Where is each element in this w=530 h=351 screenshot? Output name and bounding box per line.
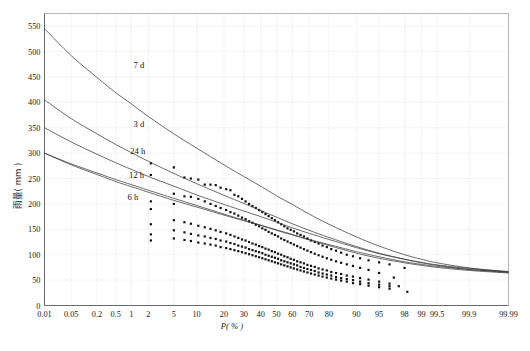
y-tick-label: 500 (28, 48, 40, 57)
data-point (229, 248, 231, 250)
x-tick-label: 70 (305, 310, 313, 319)
x-tick-label: 99.9 (462, 310, 477, 319)
data-point (352, 282, 354, 284)
data-point (271, 250, 273, 252)
data-point (359, 277, 361, 279)
data-point (306, 250, 308, 252)
data-point (197, 178, 199, 180)
data-point (183, 239, 185, 241)
data-point (286, 240, 288, 242)
data-point (215, 244, 217, 246)
data-point (197, 225, 199, 227)
data-point (258, 245, 260, 247)
data-point (241, 251, 243, 253)
data-point (335, 250, 337, 252)
data-point (233, 243, 235, 245)
data-point (274, 251, 276, 253)
data-point (215, 205, 217, 207)
data-point (204, 235, 206, 237)
data-point (261, 257, 263, 259)
data-point (271, 256, 273, 258)
data-point (251, 254, 253, 256)
data-point (229, 234, 231, 236)
data-point (271, 260, 273, 262)
x-tick-label: 30 (240, 310, 248, 319)
data-point (303, 235, 305, 237)
data-point (190, 196, 192, 198)
data-point (290, 266, 292, 268)
data-point (352, 265, 354, 267)
data-point (306, 268, 308, 270)
data-point (241, 217, 243, 219)
data-point (340, 252, 342, 254)
data-point (340, 262, 342, 264)
data-point (367, 282, 369, 284)
data-point (280, 263, 282, 265)
x-tick-label: 40 (257, 310, 265, 319)
data-point (317, 254, 319, 256)
data-point (330, 248, 332, 250)
x-axis-title: P( % ) (220, 321, 244, 331)
data-point (173, 193, 175, 195)
data-point (237, 250, 239, 252)
y-axis-tick-labels: 050100150200250300350400450500550 (28, 22, 40, 310)
data-point (280, 259, 282, 261)
data-point (306, 264, 308, 266)
data-point (286, 256, 288, 258)
data-point (271, 232, 273, 234)
data-point (330, 271, 332, 273)
x-axis-tick-labels: 0.010.050.20.512510203040506070809095989… (37, 310, 518, 319)
y-tick-label: 250 (28, 175, 40, 184)
data-point (264, 248, 266, 250)
data-point (229, 211, 231, 213)
data-point (286, 261, 288, 263)
x-tick-label: 60 (288, 310, 296, 319)
data-point (209, 184, 211, 186)
data-point (314, 266, 316, 268)
data-point (173, 166, 175, 168)
data-point (261, 246, 263, 248)
data-point (225, 232, 227, 234)
data-point (286, 227, 288, 229)
data-point (335, 279, 337, 281)
series-label-6h: 6 h (128, 192, 139, 202)
data-point (233, 249, 235, 251)
data-point (219, 246, 221, 248)
data-point (244, 239, 246, 241)
data-point (150, 208, 152, 210)
data-point (326, 269, 328, 271)
data-point (299, 261, 301, 263)
data-point (280, 254, 282, 256)
x-tick-label: 20 (220, 310, 228, 319)
data-point (209, 203, 211, 205)
data-point (340, 280, 342, 282)
data-point (190, 177, 192, 179)
data-point (219, 187, 221, 189)
data-point (317, 274, 319, 276)
data-point (150, 200, 152, 202)
x-tick-label: 2 (146, 310, 150, 319)
data-point (378, 281, 380, 283)
x-tick-label: 1 (129, 310, 133, 319)
grid-layer (45, 14, 509, 306)
data-point (264, 258, 266, 260)
data-point (271, 217, 273, 219)
data-point (215, 238, 217, 240)
data-point (233, 194, 235, 196)
data-point (268, 259, 270, 261)
y-tick-label: 150 (28, 225, 40, 234)
data-point (340, 273, 342, 275)
data-point (283, 255, 285, 257)
data-point (346, 278, 348, 280)
data-point (150, 223, 152, 225)
x-tick-label: 90 (352, 310, 360, 319)
data-point (209, 237, 211, 239)
x-tick-label: 99.5 (430, 310, 445, 319)
data-point (321, 275, 323, 277)
data-point (378, 272, 380, 274)
scatter-points-layer (150, 162, 409, 293)
data-point (293, 267, 295, 269)
data-point (346, 274, 348, 276)
data-point (268, 215, 270, 217)
rainfall-frequency-chart: 050100150200250300350400450500550 0.010.… (0, 0, 530, 351)
